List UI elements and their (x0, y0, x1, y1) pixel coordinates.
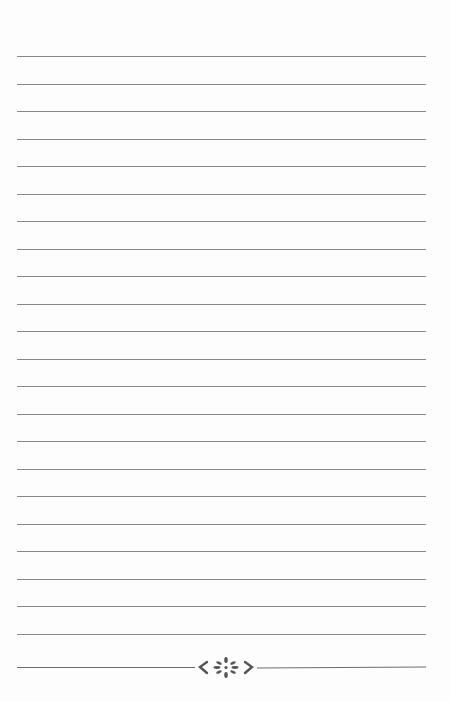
writing-line (17, 606, 426, 607)
writing-line (17, 331, 426, 332)
writing-line (17, 441, 426, 442)
writing-line (17, 139, 426, 140)
writing-line (17, 579, 426, 580)
ornament-divider (17, 660, 426, 676)
writing-line (17, 359, 426, 360)
divider-left-segment (17, 667, 195, 668)
writing-line (17, 276, 426, 277)
writing-line (17, 386, 426, 387)
writing-line (17, 56, 426, 57)
writing-line (17, 249, 426, 250)
writing-line (17, 304, 426, 305)
writing-line (17, 84, 426, 85)
writing-line (17, 166, 426, 167)
writing-line (17, 551, 426, 552)
writing-line (17, 221, 426, 222)
writing-line (17, 496, 426, 497)
writing-line (17, 524, 426, 525)
writing-line (17, 194, 426, 195)
writing-line (17, 634, 426, 635)
divider-right-segment (257, 667, 426, 669)
lined-page (0, 0, 450, 702)
writing-line (17, 111, 426, 112)
flower-scroll-ornament-icon (197, 656, 255, 680)
writing-line (17, 414, 426, 415)
writing-line (17, 469, 426, 470)
